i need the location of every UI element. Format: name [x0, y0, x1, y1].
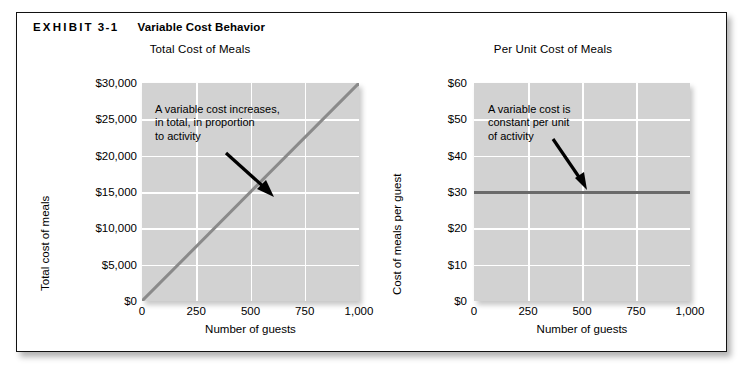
- y-tick-label: $25,000: [95, 113, 137, 125]
- x-tick-label: 500: [241, 305, 260, 317]
- x-axis-title-right: Number of guests: [474, 323, 690, 335]
- x-tick-label: 0: [139, 305, 145, 317]
- exhibit-header: EXHIBIT 3-1 Variable Cost Behavior: [33, 21, 265, 39]
- x-tick-label: 500: [572, 305, 591, 317]
- y-tick-label: $10,000: [95, 222, 137, 234]
- exhibit-number: 3-1: [98, 21, 119, 33]
- chart-per-unit-cost-of-meals: Per Unit Cost of Meals Cost of meals per…: [385, 43, 721, 343]
- annotation-arrow-left-icon: [222, 149, 280, 201]
- y-axis-title-right: Cost of meals per guest: [391, 174, 403, 295]
- y-tick-label: $20: [448, 222, 467, 234]
- chart-title-right: Per Unit Cost of Meals: [385, 43, 721, 55]
- x-tick-label: 1,000: [345, 305, 374, 317]
- y-tick-label: $15,000: [95, 186, 137, 198]
- y-axis-ticks-left: $0 $5,000 $10,000 $15,000 $20,000 $25,00…: [65, 83, 137, 301]
- x-tick-label: 1,000: [676, 305, 705, 317]
- exhibit-frame: EXHIBIT 3-1 Variable Cost Behavior Total…: [16, 12, 727, 352]
- annotation-arrow-right-icon: [549, 135, 599, 193]
- chart-total-cost-of-meals: Total Cost of Meals Total cost of meals …: [25, 43, 375, 343]
- y-axis-title-left: Total cost of meals: [39, 196, 51, 291]
- plot-area-right: A variable cost is constant per unit of …: [474, 83, 690, 301]
- y-tick-label: $40: [448, 150, 467, 162]
- chart-title-left: Total Cost of Meals: [25, 43, 375, 55]
- x-tick-label: 250: [518, 305, 537, 317]
- exhibit-label: EXHIBIT: [33, 21, 94, 33]
- x-tick-label: 750: [626, 305, 645, 317]
- x-tick-label: 750: [295, 305, 314, 317]
- exhibit-title: Variable Cost Behavior: [138, 21, 265, 33]
- x-tick-label: 250: [187, 305, 206, 317]
- y-tick-label: $50: [448, 113, 467, 125]
- y-tick-label: $0: [124, 295, 137, 307]
- y-tick-label: $60: [448, 77, 467, 89]
- x-tick-label: 0: [471, 305, 477, 317]
- y-axis-ticks-right: $0 $10 $20 $30 $40 $50 $60: [417, 83, 467, 301]
- y-tick-label: $20,000: [95, 150, 137, 162]
- y-tick-label: $0: [454, 295, 467, 307]
- plot-area-left: A variable cost increases, in total, in …: [142, 83, 359, 301]
- y-tick-label: $30: [448, 186, 467, 198]
- x-axis-title-left: Number of guests: [142, 323, 359, 335]
- y-tick-label: $10: [448, 259, 467, 271]
- annotation-left: A variable cost increases, in total, in …: [155, 103, 280, 143]
- y-tick-label: $30,000: [95, 77, 137, 89]
- y-tick-label: $5,000: [102, 259, 137, 271]
